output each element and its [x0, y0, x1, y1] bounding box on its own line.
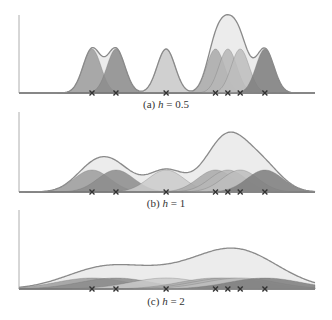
kde-panel-b	[19, 112, 315, 195]
caption-label: (c)	[147, 295, 162, 307]
panel-c-caption: (c) h = 2	[0, 295, 332, 307]
caption-value: = 0.5	[164, 98, 189, 110]
kde-panel-c	[19, 210, 315, 292]
caption-label: (b)	[147, 197, 163, 209]
kde-panel-a	[19, 15, 315, 96]
panel-b-caption: (b) h = 1	[0, 197, 332, 209]
kde-bandwidth-figure	[0, 0, 332, 320]
caption-value: = 2	[168, 295, 185, 307]
caption-value: = 1	[168, 197, 185, 209]
caption-label: (a)	[143, 98, 158, 110]
panel-a-caption: (a) h = 0.5	[0, 98, 332, 110]
